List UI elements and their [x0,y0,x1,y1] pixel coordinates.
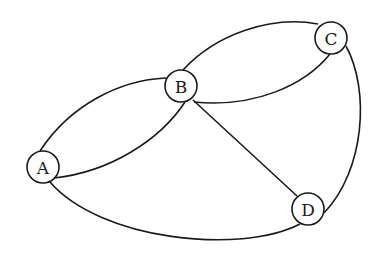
node-c: C [315,22,347,54]
edge-b-d [193,100,297,196]
node-d-label: D [301,200,315,220]
node-c-label: C [324,29,337,49]
graph-diagram: A B C D [0,0,379,260]
node-b-label: B [175,77,188,97]
edge-b-c-upper [183,22,318,70]
edge-c-d [324,46,360,213]
graph-svg: A B C D [0,0,379,260]
edge-a-d [50,182,300,240]
edge-a-b-upper [40,78,166,151]
node-b: B [165,70,197,102]
edge-b-c-lower [194,54,330,103]
node-a-label: A [36,158,50,178]
node-d: D [292,193,324,225]
node-a: A [27,151,59,183]
